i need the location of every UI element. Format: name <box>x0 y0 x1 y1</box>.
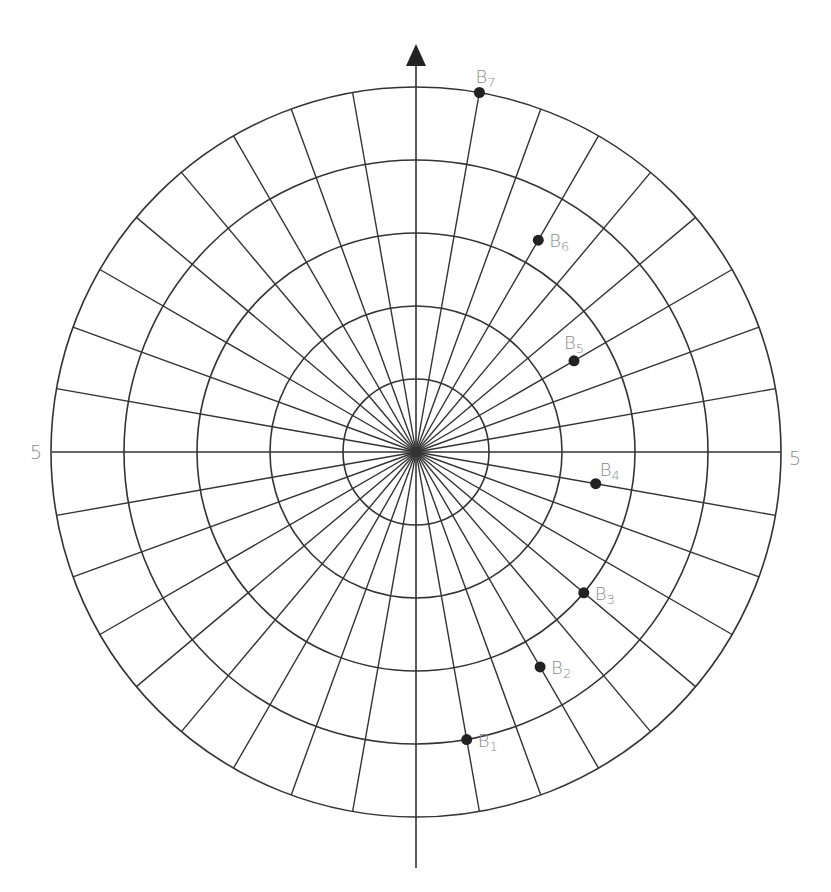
point-b3: B3 <box>578 583 615 607</box>
point-marker <box>569 355 580 366</box>
point-marker <box>590 478 601 489</box>
axis-label-right: 5 <box>789 447 801 469</box>
point-marker <box>533 235 544 246</box>
point-label: B6 <box>549 230 569 254</box>
axis-label-left: 5 <box>30 441 42 463</box>
point-marker <box>535 661 546 672</box>
point-label: B2 <box>551 657 571 681</box>
point-b6: B6 <box>533 230 570 254</box>
point-label: B3 <box>595 583 615 607</box>
point-label: B5 <box>564 332 584 356</box>
point-marker <box>474 87 485 98</box>
north-arrow-icon <box>406 44 426 66</box>
point-marker <box>578 587 589 598</box>
polar-grid-diagram: 5 5 B1B2B3B4B5B6B7 <box>0 0 831 892</box>
point-b5: B5 <box>564 332 584 367</box>
point-label: B7 <box>475 66 495 90</box>
point-label: B4 <box>600 459 620 483</box>
axes <box>52 44 781 868</box>
point-marker <box>461 734 472 745</box>
point-b2: B2 <box>535 657 572 681</box>
point-b7: B7 <box>474 66 496 99</box>
